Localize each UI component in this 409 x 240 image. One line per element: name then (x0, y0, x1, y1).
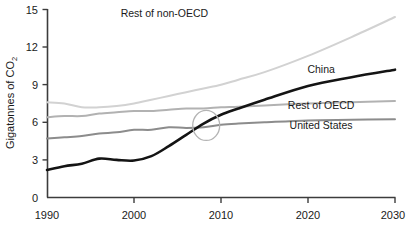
x-tick-label-1990: 1990 (35, 209, 59, 221)
x-axis-ticks (134, 198, 395, 204)
series-label-united-states: United States (290, 119, 353, 131)
y-tick-label-15: 15 (26, 4, 38, 16)
y-tick-label-3: 3 (32, 154, 38, 166)
x-tick-label-2020: 2020 (296, 209, 320, 221)
x-tick-label-2010: 2010 (209, 209, 233, 221)
y-axis-title-subscript: 2 (10, 57, 19, 61)
y-tick-label-9: 9 (32, 79, 38, 91)
x-tick-label-2000: 2000 (122, 209, 146, 221)
x-tick-label-2030: 2030 (381, 209, 405, 221)
co2-emissions-line-chart: 15 12 9 6 3 0 1990 2000 2010 2020 2030 G… (0, 0, 409, 240)
y-tick-label-6: 6 (32, 116, 38, 128)
series-label-rest-of-non-oecd: Rest of non-OECD (121, 7, 209, 19)
series-label-rest-of-oecd: Rest of OECD (288, 99, 355, 111)
y-tick-label-0: 0 (32, 192, 38, 204)
y-axis-title: Gigatonnes of CO2 (4, 57, 19, 149)
series-label-china: China (307, 63, 335, 75)
chart-container: 15 12 9 6 3 0 1990 2000 2010 2020 2030 G… (0, 0, 409, 240)
y-axis-title-text: Gigatonnes of CO2 (4, 57, 19, 149)
y-axis-title-main: Gigatonnes of CO (4, 61, 16, 149)
y-tick-label-12: 12 (26, 41, 38, 53)
